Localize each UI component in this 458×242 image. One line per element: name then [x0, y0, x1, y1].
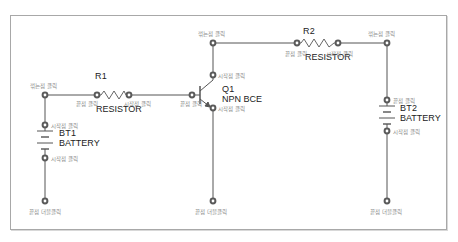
- hint-r1-end: 끝점 클릭: [76, 100, 98, 108]
- node-bt1-bottom: [43, 156, 48, 161]
- q1-ref-label: Q1: [222, 84, 234, 94]
- node-q1-collector: [211, 73, 216, 78]
- node-bt2-ground: [385, 199, 390, 204]
- bt1-value-label: BATTERY: [59, 138, 100, 148]
- node-right-bend: [385, 41, 390, 46]
- node-bt2-top: [385, 98, 390, 103]
- r2-ref-label: R2: [303, 26, 315, 36]
- hint-bt2-bottom-start: 시작점 클릭: [393, 128, 420, 136]
- schematic-canvas[interactable]: R1 RESISTOR R2 RESISTOR Q1 NPN BCE BT1 B…: [0, 0, 458, 242]
- bt2-value-label: BATTERY: [400, 113, 441, 123]
- hint-left-bend: 꺾는점 클릭: [30, 82, 57, 90]
- node-r2-start: [336, 41, 341, 46]
- hint-q1-emitter-start: 시작점 클릭: [218, 105, 245, 113]
- q1-value-label: NPN BCE: [222, 94, 262, 104]
- hint-bt2-top-end: 끝점 클릭: [393, 97, 415, 105]
- node-bt1-ground: [43, 199, 48, 204]
- hint-r2-start: 시작점 클릭: [326, 50, 353, 58]
- node-r1-end: [95, 93, 100, 98]
- hint-q1-base-end: 끝점 클릭: [180, 100, 202, 108]
- node-q1-base: [190, 93, 195, 98]
- r1-ref-label: R1: [95, 71, 107, 81]
- hint-right-bend: 꺾는점 클릭: [368, 30, 395, 38]
- hint-bt1-bottom-start: 시작점 클릭: [51, 155, 78, 163]
- hint-bt1-top-start: 시작점 클릭: [51, 122, 78, 130]
- node-left-bend: [43, 93, 48, 98]
- hint-q1-collector-start: 시작점 클릭: [218, 72, 245, 80]
- resistor-r1-icon: [97, 91, 129, 99]
- hint-q1-ground-end: 끝점 더블클릭: [195, 208, 227, 216]
- node-r2-end: [295, 41, 300, 46]
- hint-q1-top-bend: 꺾는점 클릭: [198, 30, 225, 38]
- node-r1-start: [127, 93, 132, 98]
- node-q1-top-bend: [211, 41, 216, 46]
- resistor-r2-icon: [297, 39, 338, 47]
- hint-bt2-ground-end: 끝점 더블클릭: [370, 208, 402, 216]
- hint-r2-end: 끝점 클릭: [285, 50, 307, 58]
- node-q1-emitter: [211, 106, 216, 111]
- node-bt2-bottom: [385, 129, 390, 134]
- node-bt1-top: [43, 123, 48, 128]
- node-q1-bottom: [211, 199, 216, 204]
- hint-r1-start: 시작점 클릭: [124, 100, 151, 108]
- hint-bt1-ground-end: 끝점 더블클릭: [29, 208, 61, 216]
